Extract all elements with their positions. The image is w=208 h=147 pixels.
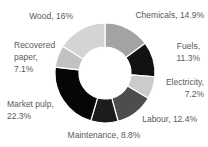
label-electricity: Electricity, 7.2% xyxy=(144,76,204,100)
donut-chart: Wood, 16% Chemicals, 14.9% Recovered pap… xyxy=(0,0,208,147)
label-chemicals: Chemicals, 14.9% xyxy=(118,9,204,21)
label-wood: Wood, 16% xyxy=(0,10,73,22)
label-recovered-paper: Recovered paper, 7.1% xyxy=(14,39,74,75)
label-labour: Labour, 12.4% xyxy=(119,113,197,125)
label-maintenance: Maintenance, 8.8% xyxy=(0,129,208,141)
label-market-pulp: Market pulp, 22.3% xyxy=(7,98,69,122)
label-fuels: Fuels, 11.3% xyxy=(158,40,200,64)
